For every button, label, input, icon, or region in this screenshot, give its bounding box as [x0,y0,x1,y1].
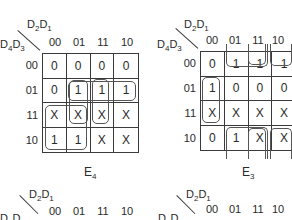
cell: 0 [201,126,225,151]
col-label: 10 [115,205,139,217]
cell: 1 [43,128,67,153]
col-label: 01 [223,203,247,215]
row-label: 10 [176,132,196,144]
col-label: 00 [43,205,67,217]
cell: 1 [272,52,292,77]
row-variables: D4D3 [157,38,182,53]
cell: X [249,101,273,126]
row-label: 11 [18,109,38,121]
cell: 0 [225,77,249,102]
cell: 0 [91,54,115,79]
cell: X [67,103,91,128]
cell: 1 [225,52,249,77]
col-label: 10 [115,36,139,48]
col-label: 00 [200,203,224,215]
col-label: 01 [67,205,91,217]
cell: 1 [201,77,225,102]
kmap-e4: D2D1 D4D3 00 01 11 10 00 01 11 10 0 0 0 … [0,0,146,170]
row-label: 01 [176,82,196,94]
cell: X [114,103,138,128]
cell: 0 [43,79,67,104]
cell: 1 [67,79,91,104]
kmap-bottom-right: D2D1 D4D3 00 01 11 10 [146,190,292,220]
col-label: 00 [200,34,224,46]
cell: 1 [114,79,138,104]
kmap-bottom-left: D2D1 D4D3 00 01 11 10 [0,190,146,220]
col-label: 10 [266,34,290,46]
column-variables: D2D1 [184,18,209,33]
col-label: 01 [223,34,247,46]
cell: 0 [249,77,273,102]
cell: 0 [43,54,67,79]
cell: X [225,101,249,126]
cell: 0 [272,77,292,102]
cell: X [114,128,138,153]
cell: X [272,126,292,151]
cell: X [91,128,115,153]
row-label: 00 [18,59,38,71]
cell: X [201,101,225,126]
cell: 0 [67,54,91,79]
cell: 1 [249,52,273,77]
col-label: 10 [266,203,290,215]
col-label: 00 [43,36,67,48]
cell: X [43,103,67,128]
col-label: 11 [91,36,115,48]
cell: X [249,126,273,151]
row-label: 10 [18,134,38,146]
cell: 1 [225,126,249,151]
cell: 0 [201,52,225,77]
cell: 1 [91,79,115,104]
cell: 0 [114,54,138,79]
kmap-grid: 0 0 0 0 0 1 1 1 X X X X 1 1 X X [42,53,139,153]
column-variables: D2D1 [27,18,52,33]
column-variables: D2D1 [186,188,211,203]
column-variables: D2D1 [29,188,54,203]
kmap-e3: D2D1 D4D3 00 01 11 10 00 01 11 10 0 1 1 … [146,0,292,170]
map-title: E4 [84,165,96,181]
cell: X [272,101,292,126]
row-variables: D4D3 [158,212,183,220]
kmap-grid: 0 1 1 1 1 0 0 0 X X X X 0 1 X X [200,51,292,151]
cell: X [91,103,115,128]
row-variables: D4D3 [0,212,25,220]
map-title: E3 [242,165,254,181]
row-label: 11 [176,107,196,119]
col-label: 01 [67,36,91,48]
row-label: 01 [18,84,38,96]
row-label: 00 [176,57,196,69]
cell: 1 [67,128,91,153]
row-variables: D4D3 [0,38,25,53]
col-label: 11 [91,205,115,217]
